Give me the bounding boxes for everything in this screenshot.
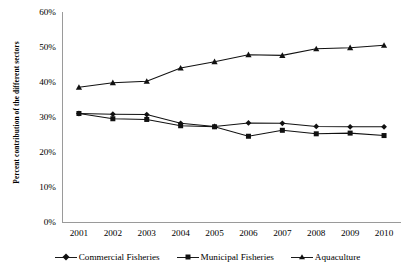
data-point-marker bbox=[110, 111, 116, 117]
data-point-marker bbox=[313, 46, 319, 52]
data-point-marker bbox=[280, 128, 285, 133]
data-point-marker bbox=[76, 84, 82, 90]
data-point-marker bbox=[347, 45, 353, 51]
x-tick-label: 2010 bbox=[364, 228, 404, 238]
data-point-marker bbox=[246, 120, 252, 126]
data-point-marker bbox=[381, 42, 387, 48]
data-point-marker bbox=[144, 78, 150, 84]
data-point-marker bbox=[314, 131, 319, 136]
data-point-marker bbox=[211, 59, 217, 65]
chart-legend: Commercial FisheriesMunicipal FisheriesA… bbox=[0, 252, 415, 262]
data-point-marker bbox=[212, 124, 217, 129]
data-point-marker bbox=[279, 120, 285, 126]
data-point-marker bbox=[144, 112, 150, 118]
series-line bbox=[79, 114, 384, 137]
legend-item[interactable]: Commercial Fisheries bbox=[55, 252, 160, 262]
data-point-marker bbox=[381, 124, 387, 130]
data-point-marker bbox=[76, 111, 82, 117]
y-axis-line bbox=[62, 12, 63, 223]
data-point-marker bbox=[178, 65, 184, 71]
data-point-marker bbox=[110, 80, 116, 86]
data-point-marker bbox=[110, 116, 115, 121]
legend-item-label: Aquaculture bbox=[315, 252, 360, 262]
data-point-marker bbox=[76, 111, 81, 116]
data-point-marker bbox=[279, 52, 285, 58]
data-point-marker bbox=[347, 124, 353, 130]
data-point-marker bbox=[178, 123, 183, 128]
legend-square-icon bbox=[177, 253, 199, 262]
legend-diamond-icon bbox=[55, 253, 77, 262]
data-point-marker bbox=[313, 124, 319, 130]
x-axis-line bbox=[62, 222, 401, 223]
series-line bbox=[79, 45, 384, 87]
y-tick-label: 60% bbox=[20, 8, 56, 17]
legend-item-label: Commercial Fisheries bbox=[79, 252, 160, 262]
y-tick-label: 30% bbox=[20, 113, 56, 122]
series-line bbox=[79, 114, 384, 127]
data-point-marker bbox=[246, 134, 251, 139]
data-point-marker bbox=[382, 133, 387, 138]
data-point-marker bbox=[348, 131, 353, 136]
y-tick-label: 40% bbox=[20, 78, 56, 87]
data-point-marker bbox=[178, 120, 184, 126]
legend-item[interactable]: Aquaculture bbox=[291, 252, 360, 262]
data-point-marker bbox=[212, 124, 218, 130]
legend-item-label: Municipal Fisheries bbox=[201, 252, 274, 262]
data-point-marker bbox=[245, 52, 251, 58]
legend-item[interactable]: Municipal Fisheries bbox=[177, 252, 274, 262]
y-tick-label: 20% bbox=[20, 148, 56, 157]
line-chart: Percent contribution of the different se… bbox=[0, 0, 415, 272]
y-tick-label: 10% bbox=[20, 183, 56, 192]
data-point-marker bbox=[144, 117, 149, 122]
y-tick-label: 50% bbox=[20, 43, 56, 52]
legend-triangle-icon bbox=[291, 253, 313, 262]
y-tick-label: 0% bbox=[20, 218, 56, 227]
